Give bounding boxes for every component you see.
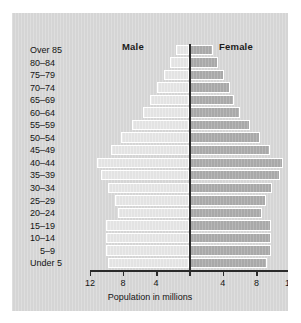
bar-male: [106, 233, 189, 243]
bar-female: [189, 132, 260, 142]
x-axis-tick: [123, 270, 124, 276]
x-axis-tick: [90, 270, 91, 276]
bar-male: [170, 57, 189, 67]
bar-male: [111, 145, 189, 155]
bar-female: [189, 183, 272, 193]
age-group-label: 65–69: [30, 94, 88, 107]
bar-male: [106, 245, 189, 255]
bar-male: [132, 120, 189, 130]
age-group-label: 10–14: [30, 232, 88, 245]
age-group-label: 20–24: [30, 207, 88, 220]
age-group-label: 55–59: [30, 119, 88, 132]
bar-female: [189, 95, 234, 105]
bar-male: [176, 45, 189, 55]
bar-male: [108, 258, 189, 268]
bar-male: [121, 132, 189, 142]
age-group-label: Over 85: [30, 44, 88, 57]
chart-figure: Male Female Over 8580–8475–7970–7465–696…: [0, 0, 301, 323]
age-group-label: 60–64: [30, 107, 88, 120]
bar-female: [189, 258, 267, 268]
age-group-label: 25–29: [30, 195, 88, 208]
bar-female: [189, 120, 249, 130]
x-axis-tick-label: 4: [220, 278, 225, 288]
x-axis-tick-label: 8: [254, 278, 259, 288]
bar-male: [97, 158, 189, 168]
bar-female: [189, 220, 270, 230]
x-axis-tick: [156, 270, 157, 276]
x-axis-tick-label: 12: [85, 278, 95, 288]
bar-male: [164, 70, 190, 80]
x-axis-tick-label: 4: [154, 278, 159, 288]
x-axis-tick-label: 12: [285, 278, 288, 288]
age-group-label: 30–34: [30, 182, 88, 195]
bar-female: [189, 57, 218, 67]
x-axis-tick: [256, 270, 257, 276]
bar-female: [189, 208, 262, 218]
age-group-axis: Over 8580–8475–7970–7465–6960–6455–5950–…: [30, 44, 88, 270]
bar-female: [189, 82, 229, 92]
x-axis-tick: [189, 270, 190, 276]
age-group-label: 15–19: [30, 220, 88, 233]
chart-panel: Male Female Over 8580–8475–7970–7465–696…: [12, 13, 288, 311]
bar-male: [118, 208, 189, 218]
bar-male: [108, 183, 189, 193]
bar-female: [189, 145, 270, 155]
bar-female: [189, 233, 270, 243]
bar-female: [189, 107, 240, 117]
bar-male: [101, 170, 189, 180]
bar-male: [143, 107, 189, 117]
bar-male: [106, 220, 189, 230]
age-group-label: 75–79: [30, 69, 88, 82]
bar-female: [189, 245, 270, 255]
age-group-label: 40–44: [30, 157, 88, 170]
bar-male: [115, 195, 189, 205]
bar-female: [189, 70, 223, 80]
bar-female: [189, 158, 283, 168]
age-group-label: 5–9: [30, 245, 88, 258]
x-axis-tick: [223, 270, 224, 276]
age-group-label: 80–84: [30, 57, 88, 70]
bar-female: [189, 195, 265, 205]
age-group-label: 45–49: [30, 144, 88, 157]
x-axis-title: Population in millions: [12, 292, 288, 302]
age-group-label: Under 5: [30, 257, 88, 270]
age-group-label: 70–74: [30, 82, 88, 95]
age-group-label: 50–54: [30, 132, 88, 145]
bar-female: [189, 45, 213, 55]
x-axis-tick-label: 8: [121, 278, 126, 288]
center-axis-line: [189, 44, 191, 270]
age-group-label: 35–39: [30, 169, 88, 182]
bar-male: [150, 95, 189, 105]
bar-female: [189, 170, 280, 180]
bar-male: [157, 82, 189, 92]
